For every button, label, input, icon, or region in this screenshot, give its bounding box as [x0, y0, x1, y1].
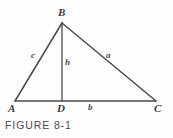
figure-caption: FIGURE 8-1	[5, 119, 72, 131]
side-label-a: a	[106, 51, 111, 60]
vertex-label-c: C	[154, 103, 162, 114]
vertex-label-a: A	[8, 103, 16, 114]
vertex-label-b: B	[58, 7, 66, 18]
side-label-b: b	[88, 103, 93, 112]
side-a-line	[62, 23, 156, 101]
figure-container: B A C D c a h b FIGURE 8-1	[0, 0, 173, 138]
side-label-h: h	[65, 58, 70, 67]
triangle-diagram	[0, 0, 173, 138]
side-label-c: c	[31, 51, 35, 60]
side-c-line	[15, 23, 62, 101]
vertex-label-d: D	[57, 103, 65, 114]
